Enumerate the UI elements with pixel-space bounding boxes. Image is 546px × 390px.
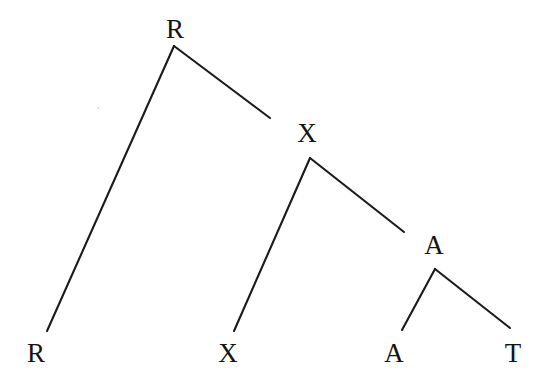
tree-edge-branch-x-to-branch-a: [310, 158, 404, 232]
tree-node-leaf-r: R: [27, 340, 45, 367]
tree-node-root-r: R: [166, 16, 184, 43]
stray-speck-artifact: [97, 107, 99, 109]
tree-node-leaf-x: X: [218, 340, 238, 367]
tree-node-leaf-t: T: [505, 340, 522, 367]
tree-edges-layer: [0, 0, 546, 390]
tree-edge-root-r-to-leaf-r: [47, 46, 174, 331]
tree-node-branch-a: A: [424, 232, 444, 259]
tree-node-branch-x: X: [297, 120, 317, 147]
tree-diagram-canvas: RRXXAAT: [0, 0, 546, 390]
tree-edge-branch-a-to-leaf-a: [402, 269, 435, 330]
tree-node-leaf-a: A: [384, 340, 404, 367]
tree-edge-branch-a-to-leaf-t: [435, 269, 510, 328]
tree-edge-branch-x-to-leaf-x: [234, 158, 310, 331]
edge-group: [47, 46, 510, 331]
tree-edge-root-r-to-branch-x: [174, 46, 270, 118]
